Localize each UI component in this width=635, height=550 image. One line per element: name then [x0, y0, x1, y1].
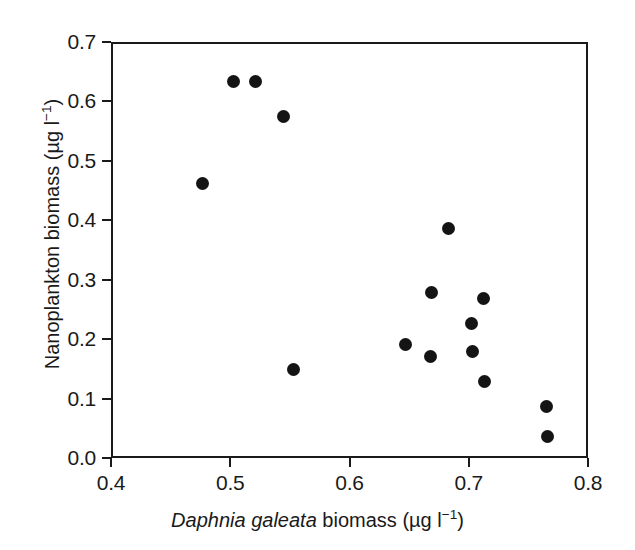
- x-tick-mark: [587, 458, 589, 467]
- scatter-plot-figure: 0.00.10.20.30.40.50.60.7 0.40.50.60.70.8…: [0, 0, 635, 550]
- data-point: [287, 363, 300, 376]
- x-tick-label: 0.7: [434, 472, 504, 493]
- data-point: [466, 345, 479, 358]
- x-axis-title-exponent: −1: [442, 507, 458, 522]
- y-axis-title: Nanoplankton biomass (µg l−1): [40, 24, 64, 444]
- data-point: [465, 317, 478, 330]
- x-tick-label: 0.8: [553, 472, 623, 493]
- y-tick-mark: [102, 338, 111, 340]
- x-tick-label: 0.6: [315, 472, 385, 493]
- data-point: [478, 375, 491, 388]
- y-axis-title-main: Nanoplankton biomass (µg l: [41, 121, 63, 369]
- data-point: [227, 75, 240, 88]
- plot-area: [111, 42, 588, 458]
- x-tick-label: 0.4: [76, 472, 146, 493]
- x-tick-mark: [110, 458, 112, 467]
- x-axis-title-tail: ): [457, 509, 464, 531]
- y-tick-mark: [102, 160, 111, 162]
- data-point: [442, 222, 455, 235]
- y-tick-mark: [102, 279, 111, 281]
- data-point: [477, 292, 490, 305]
- x-axis-title-species: Daphnia galeata: [171, 509, 317, 531]
- data-point: [249, 75, 262, 88]
- y-axis-title-exponent: −1: [39, 105, 54, 121]
- y-tick-label: 0.0: [40, 447, 96, 468]
- x-axis-title-rest: biomass (µg l: [317, 509, 442, 531]
- data-point: [541, 430, 554, 443]
- data-point: [540, 400, 553, 413]
- x-tick-mark: [229, 458, 231, 467]
- y-tick-mark: [102, 41, 111, 43]
- x-tick-mark: [468, 458, 470, 467]
- y-tick-mark: [102, 219, 111, 221]
- y-tick-mark: [102, 100, 111, 102]
- y-axis-title-tail: ): [41, 99, 63, 106]
- y-tick-mark: [102, 398, 111, 400]
- x-axis-title: Daphnia galeata biomass (µg l−1): [0, 508, 635, 532]
- data-point: [399, 338, 412, 351]
- x-tick-label: 0.5: [195, 472, 265, 493]
- x-tick-mark: [349, 458, 351, 467]
